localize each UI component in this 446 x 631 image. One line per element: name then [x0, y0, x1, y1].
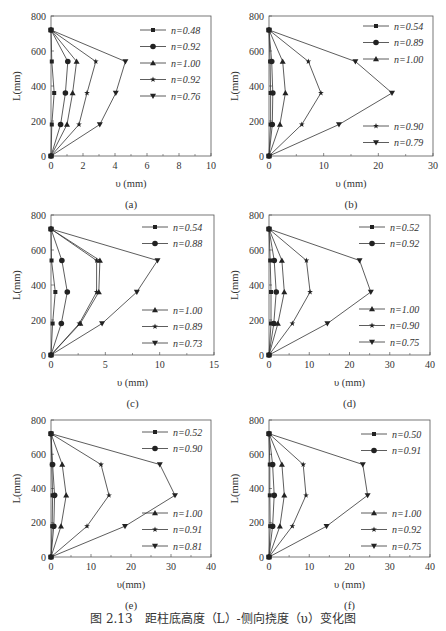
marker-star-icon	[373, 123, 379, 128]
marker-triangle-down-icon	[154, 258, 160, 263]
legend-entry: n=0.92	[392, 524, 421, 535]
y-axis-label: L(mm)	[229, 473, 241, 503]
legend-entry: n=0.75	[392, 541, 421, 552]
marker-triangle-down-icon	[336, 122, 342, 127]
y-tick-label: 800	[31, 210, 46, 221]
marker-triangle-up-icon	[277, 523, 283, 528]
chart-panel-b: 01020300200400600800υ (mm)L(mm)(b)n=0.54…	[223, 0, 446, 205]
legend-entry: n=0.91	[392, 445, 421, 456]
legend-entry: n=1.00	[173, 508, 202, 519]
marker-star-icon	[306, 59, 312, 64]
x-tick-label: 5	[103, 359, 108, 370]
marker-square-icon	[53, 290, 57, 294]
marker-square-icon	[372, 432, 376, 436]
marker-star-icon	[152, 324, 158, 329]
legend-entry: n=1.00	[173, 305, 202, 316]
marker-circle-icon	[271, 493, 277, 499]
marker-star-icon	[371, 527, 377, 532]
x-tick-label: 0	[49, 561, 54, 572]
legend-entry: n=0.89	[173, 321, 202, 332]
marker-star-icon	[106, 492, 112, 497]
legend-entry: n=0.54	[394, 21, 423, 32]
marker-triangle-down-icon	[360, 462, 366, 467]
marker-triangle-down-icon	[357, 258, 363, 263]
marker-triangle-down-icon	[324, 321, 330, 326]
marker-circle-icon	[59, 321, 65, 327]
marker-triangle-down-icon	[365, 493, 371, 498]
marker-star-icon	[318, 90, 324, 95]
marker-triangle-up-icon	[281, 289, 287, 294]
y-tick-label: 0	[259, 552, 264, 563]
marker-triangle-up-icon	[64, 122, 70, 127]
chart-panel-f: 0102030400200400600800υ (mm)L(mm)(f)n=0.…	[223, 415, 446, 620]
marker-star-icon	[303, 492, 309, 497]
marker-triangle-up-icon	[281, 492, 287, 497]
legend-entry: n=1.00	[392, 508, 421, 519]
y-axis-label: L(mm)	[11, 270, 23, 300]
legend-entry: n=0.75	[390, 337, 419, 348]
marker-circle-icon	[369, 241, 375, 247]
y-axis-label: L(mm)	[229, 270, 241, 300]
marker-triangle-up-icon	[59, 462, 65, 467]
legend-entry: n=1.00	[171, 58, 200, 69]
marker-square-icon	[52, 91, 56, 95]
x-tick-label: 0	[267, 359, 272, 370]
marker-triangle-up-icon	[371, 510, 377, 515]
panel-label: (c)	[126, 397, 139, 410]
marker-circle-icon	[373, 40, 379, 46]
y-tick-label: 800	[249, 11, 264, 22]
marker-triangle-up-icon	[58, 523, 64, 528]
legend-entry: n=0.92	[171, 74, 200, 85]
marker-square-icon	[51, 322, 55, 326]
plot-frame	[51, 16, 211, 156]
x-tick-label: 10	[206, 160, 216, 171]
marker-circle-icon	[150, 44, 156, 50]
marker-circle-icon	[52, 493, 58, 499]
marker-circle-icon	[63, 90, 69, 96]
marker-star-icon	[289, 523, 295, 528]
x-tick-label: 0	[49, 359, 54, 370]
marker-triangle-down-icon	[172, 493, 178, 498]
marker-circle-icon	[152, 446, 158, 452]
y-tick-label: 0	[41, 350, 46, 361]
marker-triangle-up-icon	[279, 462, 285, 467]
marker-square-icon	[370, 225, 374, 229]
marker-triangle-down-icon	[389, 91, 395, 96]
series-n=0.90	[266, 226, 313, 357]
legend: n=0.54n=0.88n=1.00n=0.89n=0.73	[142, 222, 202, 349]
legend: n=0.50n=0.91n=1.00n=0.92n=0.75	[361, 429, 421, 552]
x-tick-label: 20	[345, 359, 355, 370]
y-tick-label: 400	[249, 280, 264, 291]
legend-entry: n=1.00	[394, 54, 423, 65]
marker-circle-icon	[59, 258, 65, 264]
x-tick-label: 10	[86, 561, 96, 572]
x-tick-label: 20	[345, 561, 355, 572]
plot-frame	[269, 420, 430, 557]
x-axis-label: υ (mm)	[335, 178, 367, 190]
x-axis-label: υ (mm)	[334, 579, 366, 591]
series-n=0.91	[48, 431, 112, 560]
legend-entry: n=0.88	[173, 238, 202, 249]
marker-square-icon	[153, 430, 157, 434]
y-tick-label: 800	[249, 415, 264, 426]
marker-triangle-up-icon	[63, 492, 69, 497]
marker-triangle-down-icon	[152, 544, 158, 549]
x-axis-label: υ (mm)	[334, 377, 366, 389]
y-tick-label: 200	[249, 517, 264, 528]
marker-triangle-down-icon	[371, 544, 377, 549]
x-tick-label: 30	[166, 561, 176, 572]
marker-circle-icon	[371, 448, 377, 454]
legend-entry: n=0.92	[390, 238, 419, 249]
marker-square-icon	[50, 123, 54, 127]
x-tick-label: 40	[425, 561, 435, 572]
x-tick-label: 6	[145, 160, 150, 171]
y-tick-label: 600	[249, 46, 264, 57]
y-tick-label: 800	[31, 415, 46, 426]
marker-circle-icon	[65, 289, 71, 295]
legend: n=0.48n=0.92n=1.00n=0.92n=0.76	[140, 25, 200, 102]
panel-label: (d)	[343, 397, 356, 410]
x-tick-label: 10	[319, 160, 329, 171]
y-tick-label: 600	[249, 245, 264, 256]
legend-entry: n=0.76	[171, 91, 200, 102]
chart-panel-c: 0510150200400600800υ (mm)L(mm)(c)n=0.54n…	[0, 210, 223, 415]
